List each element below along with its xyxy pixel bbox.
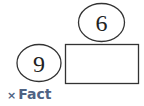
top-oval-number: 6 [96,10,108,36]
left-oval-number: 9 [33,51,45,77]
answer-box[interactable] [66,45,139,84]
multiply-icon: × [7,89,16,102]
fact-caption: ×Fact [7,86,51,102]
fact-label: Fact [18,86,51,102]
